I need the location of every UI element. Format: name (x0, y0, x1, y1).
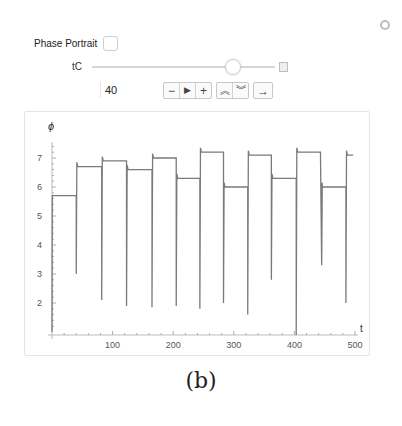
phase-portrait-checkbox[interactable] (103, 36, 118, 51)
expand-controls-icon[interactable] (279, 62, 288, 72)
tc-slider-track[interactable] (92, 66, 275, 68)
phase-portrait-label: Phase Portrait (34, 38, 97, 49)
increment-button[interactable]: + (196, 83, 211, 98)
decrement-button[interactable]: − (164, 83, 180, 98)
gear-icon[interactable] (380, 20, 390, 30)
faster-button[interactable]: ︽ (217, 83, 233, 98)
direction-button[interactable]: → (254, 83, 272, 98)
play-button[interactable]: ▶ (180, 83, 196, 98)
tc-slider-thumb[interactable] (225, 59, 241, 75)
animation-controls: − ▶ + ︽ ︾ → (163, 82, 273, 99)
slider-value-field[interactable]: 40 (100, 82, 155, 98)
figure-caption: (b) (0, 368, 402, 393)
plot-frame (24, 111, 370, 356)
slower-button[interactable]: ︾ (233, 83, 248, 98)
slider-label: tC (72, 61, 82, 72)
phase-portrait-control: Phase Portrait (34, 36, 118, 51)
